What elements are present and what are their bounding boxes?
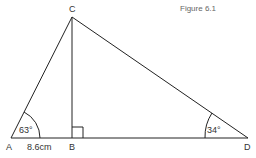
point-label-B: B — [69, 142, 75, 152]
point-label-D: D — [244, 142, 251, 152]
line-CD — [72, 17, 248, 138]
length-label-AB: 8.6cm — [27, 142, 52, 152]
angle-label-D: 34° — [207, 125, 221, 135]
point-label-A: A — [6, 142, 12, 152]
figure-caption: Figure 6.1 — [180, 4, 217, 13]
right-angle-marker — [72, 127, 83, 138]
line-AC — [11, 17, 72, 138]
angle-label-A: 63° — [19, 125, 33, 135]
point-label-C: C — [69, 4, 76, 14]
triangle-diagram: Figure 6.1 63° 34° C A B D 8.6cm — [0, 0, 256, 158]
